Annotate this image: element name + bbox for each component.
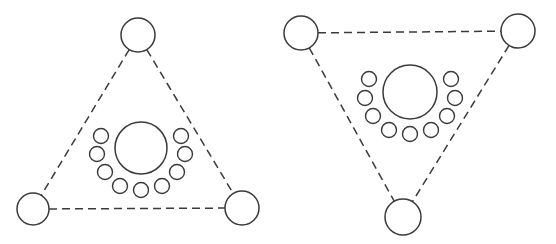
- panel-right-satellite-7: [440, 109, 455, 124]
- panel-right-satellite-2: [358, 91, 373, 106]
- panel-left-satellite-1: [94, 129, 109, 144]
- right-diagram-vertices: [284, 14, 535, 235]
- panel-left-satellite-3: [98, 165, 113, 180]
- right-diagram: [284, 14, 535, 235]
- panel-right-satellite-9: [444, 72, 459, 87]
- right-edge-top-left-to-top-right: [318, 31, 501, 33]
- panel-right-satellite-6: [424, 123, 439, 138]
- left-vertex-bottom-left: [17, 193, 49, 225]
- panel-left-hub-circle: [115, 122, 167, 174]
- right-edge-top-left-to-bottom: [309, 48, 394, 201]
- panel-left-satellite-4: [113, 179, 128, 194]
- panel-left-satellite-6: [155, 179, 170, 194]
- diagram-canvas: [0, 0, 556, 244]
- panel-left-satellite-8: [178, 147, 193, 162]
- panel-left-satellite-5: [134, 183, 149, 198]
- left-vertex-bottom-right: [225, 191, 259, 225]
- panel-left-satellite-7: [170, 165, 185, 180]
- left-diagram: [17, 18, 259, 225]
- panel-right-satellite-3: [366, 109, 381, 124]
- panel-left-satellite-2: [90, 147, 105, 162]
- panel-right-satellite-8: [448, 91, 463, 106]
- right-vertex-bottom: [385, 199, 421, 235]
- right-vertex-top-left: [284, 16, 318, 50]
- diagram-svg: [0, 0, 556, 244]
- right-vertex-top-right: [501, 14, 535, 48]
- panel-left-satellite-9: [174, 129, 189, 144]
- left-vertex-top: [121, 18, 155, 52]
- left-edge-bottom-left-to-bottom-right: [49, 208, 225, 209]
- panel-right-hub-circle: [383, 65, 437, 119]
- left-edge-top-to-bottom-left: [41, 50, 129, 196]
- panel-right-satellite-5: [403, 127, 418, 142]
- left-edge-top-to-bottom-right: [147, 50, 233, 194]
- panel-right-satellite-1: [362, 72, 377, 87]
- panel-right-satellite-4: [382, 123, 397, 138]
